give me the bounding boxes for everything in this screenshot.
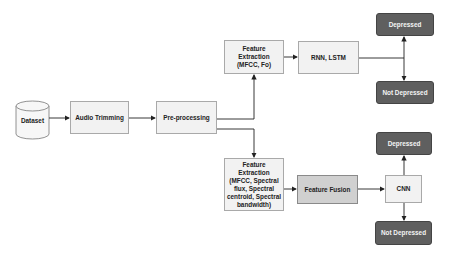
dataset-label: Dataset <box>16 117 49 124</box>
preprocessing-box: Pre-processing <box>156 101 217 134</box>
cnn-box: CNN <box>385 175 422 203</box>
feature-extraction-top-box: Feature Extraction (MFCC, Fo) <box>224 40 284 74</box>
feature-extraction-bottom-box: Feature Extraction (MFCC, Spectral flux,… <box>224 158 284 211</box>
not-depressed-top-box: Not Depressed <box>376 81 434 104</box>
depressed-top-box: Depressed <box>376 13 434 36</box>
not-depressed-bottom-box: Not Depressed <box>375 221 432 245</box>
connector-lines <box>0 0 449 256</box>
feature-fusion-box: Feature Fusion <box>297 175 358 204</box>
depressed-bottom-box: Depressed <box>376 132 432 155</box>
rnn-lstm-box: RNN, LSTM <box>298 41 359 74</box>
audio-trimming-box: Audio Trimming <box>70 101 129 134</box>
